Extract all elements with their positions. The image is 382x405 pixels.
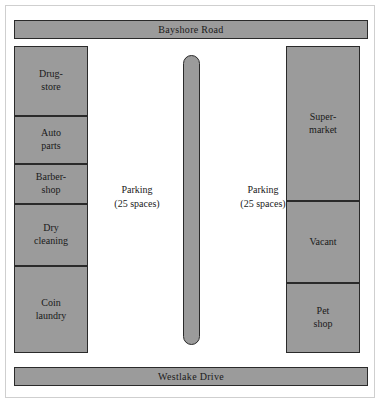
road-top-label: Bayshore Road [158, 24, 223, 35]
unit-vacant[interactable]: Vacant [286, 201, 360, 283]
unit-vacant-line1: Vacant [309, 236, 336, 249]
site-plan-figure: Bayshore Road Drug- store Auto parts Bar… [0, 0, 382, 405]
unit-supermarket-line1: Super- [309, 111, 337, 124]
unit-supermarket[interactable]: Super- market [286, 46, 360, 201]
unit-dry-cleaning[interactable]: Dry cleaning [14, 204, 88, 266]
road-bottom-label: Westlake Drive [158, 371, 224, 382]
unit-pet-shop-line2: shop [314, 318, 333, 331]
unit-auto-parts-line1: Auto [41, 127, 61, 140]
unit-pet-shop[interactable]: Pet shop [286, 283, 360, 353]
parking-right-line2: (25 spaces) [208, 197, 318, 211]
parking-left-line1: Parking [82, 183, 192, 197]
unit-drugstore-line1: Drug- [39, 68, 63, 81]
unit-barbershop-line1: Barber- [36, 171, 66, 184]
unit-barbershop[interactable]: Barber- shop [14, 164, 88, 204]
parking-left-line2: (25 spaces) [82, 197, 192, 211]
unit-barbershop-line2: shop [36, 184, 66, 197]
road-westlake-drive: Westlake Drive [14, 367, 368, 386]
unit-auto-parts[interactable]: Auto parts [14, 116, 88, 164]
unit-pet-shop-line1: Pet [314, 305, 333, 318]
unit-supermarket-line2: market [309, 124, 337, 137]
left-building-strip: Drug- store Auto parts Barber- shop Dry … [14, 46, 88, 353]
unit-dry-cleaning-line2: cleaning [34, 235, 68, 248]
road-bayshore-road: Bayshore Road [14, 20, 368, 39]
unit-coin-laundry-line2: laundry [36, 310, 67, 323]
unit-drugstore-line2: store [39, 81, 63, 94]
parking-label-left: Parking (25 spaces) [82, 183, 192, 210]
unit-drugstore[interactable]: Drug- store [14, 46, 88, 116]
unit-auto-parts-line2: parts [41, 140, 61, 153]
parking-label-right: Parking (25 spaces) [208, 183, 318, 210]
unit-coin-laundry-line1: Coin [36, 297, 67, 310]
parking-right-line1: Parking [208, 183, 318, 197]
unit-coin-laundry[interactable]: Coin laundry [14, 266, 88, 353]
unit-dry-cleaning-line1: Dry [34, 222, 68, 235]
